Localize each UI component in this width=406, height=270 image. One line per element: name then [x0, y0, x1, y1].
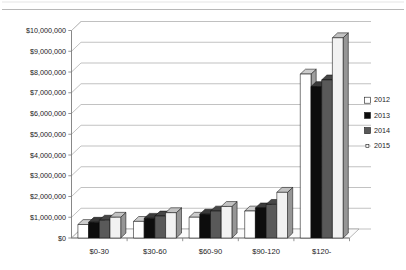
bar-2015-120- [332, 33, 348, 238]
legend-item-2014: 2014 [365, 126, 391, 135]
bar-front-face [144, 218, 155, 238]
legend-item-2013: 2013 [365, 111, 391, 120]
legend-label: 2012 [374, 95, 390, 104]
y-axis-label: $1,000,000 [30, 213, 66, 222]
gridline-depth-connector [72, 146, 82, 155]
legend-label: 2013 [374, 111, 390, 120]
y-axis-label: $10,000,000 [26, 26, 66, 35]
x-axis-label: $30-60 [143, 247, 167, 256]
bar-front-face [110, 217, 121, 238]
bar-front-face [200, 214, 211, 238]
legend-swatch [365, 112, 371, 118]
bar-side-face [232, 202, 237, 238]
legend-item-2015: 2015 [366, 141, 390, 150]
gridline-depth-connector [72, 42, 82, 51]
x-axis-label: $90-120 [252, 247, 280, 256]
bar-2015-90-120 [277, 187, 293, 238]
bar-front-face [155, 216, 166, 238]
bar-front-face [332, 38, 343, 238]
bar-front-face [245, 211, 256, 238]
legend-item-2012: 2012 [365, 95, 391, 104]
bar-front-face [99, 220, 110, 238]
bar-front-face [255, 208, 266, 238]
legend-swatch [365, 97, 371, 103]
y-axis-label: $0 [58, 234, 66, 243]
gridline-depth-connector [72, 105, 82, 114]
y-axis-label: $9,000,000 [30, 47, 66, 56]
legend-swatch [365, 128, 371, 134]
bar-front-face [322, 80, 333, 238]
gridline-depth-connector [72, 188, 82, 197]
bar-front-face [311, 87, 322, 238]
bar-front-face [277, 192, 288, 238]
y-axis-label: $6,000,000 [30, 109, 66, 118]
bar-2015-60-90 [221, 202, 237, 238]
legend-label: 2015 [374, 141, 390, 150]
y-axis-label: $4,000,000 [30, 151, 66, 160]
bar-front-face [221, 206, 232, 238]
y-axis-label: $7,000,000 [30, 88, 66, 97]
y-axis-label: $8,000,000 [30, 68, 66, 77]
x-axis-label: $120- [312, 247, 332, 256]
legend-swatch [366, 144, 369, 147]
bar-front-face [189, 217, 200, 238]
bar-front-face [78, 225, 89, 238]
gridline-depth-connector [72, 208, 82, 217]
bar-side-face [288, 187, 293, 238]
bar-front-face [300, 74, 311, 238]
bar-2015-0-30 [110, 212, 126, 238]
chart-container: $10,000,000$9,000,000$8,000,000$7,000,00… [0, 0, 406, 270]
x-axis-label: $60-90 [199, 247, 223, 256]
bar-2015-30-60 [166, 208, 182, 238]
y-axis-label: $3,000,000 [30, 171, 66, 180]
bar-front-face [166, 213, 177, 238]
gridline-depth-connector [72, 125, 82, 134]
gridline-depth-connector [72, 167, 82, 176]
y-axis-label: $5,000,000 [30, 130, 66, 139]
bar-chart-3d: $10,000,000$9,000,000$8,000,000$7,000,00… [0, 0, 406, 270]
y-axis-label: $2,000,000 [30, 192, 66, 201]
x-axis-label: $0-30 [90, 247, 109, 256]
bar-front-face [89, 222, 100, 238]
bar-front-face [266, 204, 277, 238]
bar-front-face [211, 211, 222, 238]
legend-label: 2014 [374, 126, 390, 135]
bar-front-face [133, 221, 144, 238]
bar-side-face [343, 33, 348, 238]
gridline-depth-connector [72, 84, 82, 93]
gridline-depth-connector [72, 63, 82, 72]
